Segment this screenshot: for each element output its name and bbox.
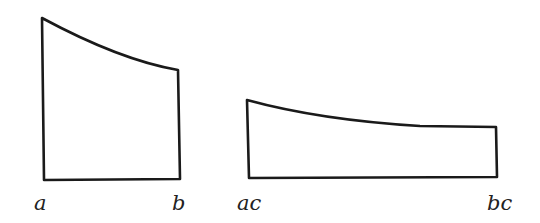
label-b: b: [172, 193, 185, 214]
right-quadrilateral: [247, 100, 497, 178]
label-bc: bc: [487, 193, 512, 214]
label-ac: ac: [237, 193, 261, 214]
diagram-canvas: [0, 0, 540, 223]
left-quadrilateral: [42, 18, 180, 180]
label-a: a: [34, 193, 47, 214]
